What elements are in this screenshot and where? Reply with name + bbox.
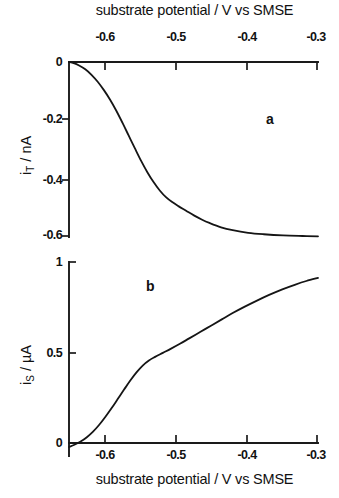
panel-b-xtick-label-1: -0.5 <box>166 448 185 462</box>
panel-b-xtick-label-2: -0.4 <box>237 448 256 462</box>
panel-b-data-curve <box>69 278 318 447</box>
panel-b-plot <box>0 0 339 498</box>
panel-b-xtick-label-0: -0.6 <box>95 448 114 462</box>
panel-b-y-tickmarks <box>69 262 76 353</box>
figure-container: substrate potential / V vs SMSE -0.6 -0.… <box>0 0 339 498</box>
panel-b-xtick-label-3: -0.3 <box>306 448 325 462</box>
panel-b-x-tickmarks <box>105 435 317 443</box>
panel-b-axes <box>69 262 318 456</box>
bottom-axis-title: substrate potential / V vs SMSE <box>50 471 339 487</box>
